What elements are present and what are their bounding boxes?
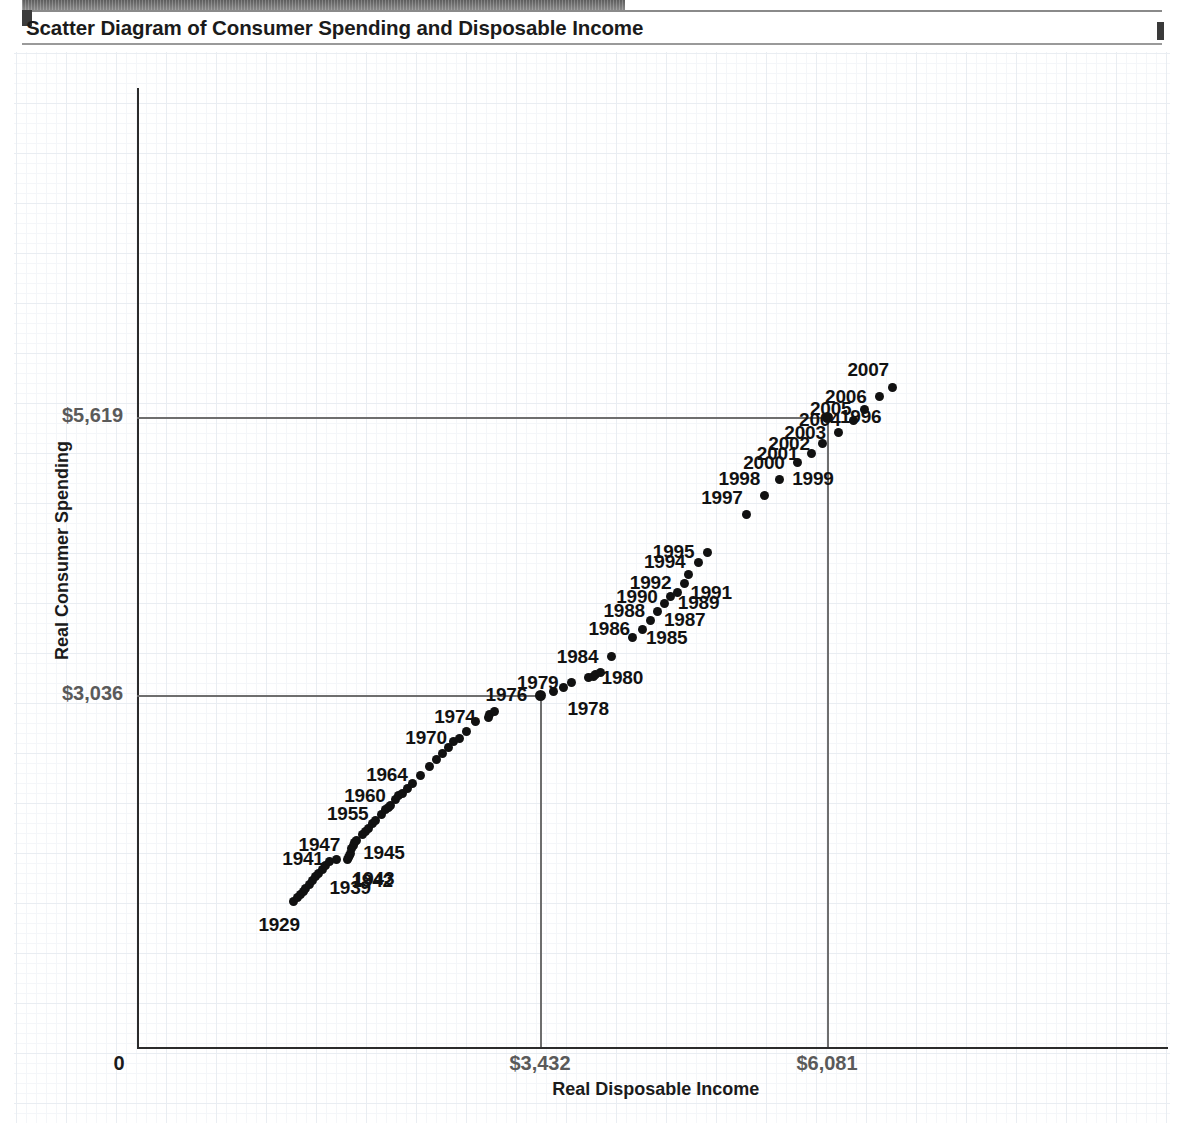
- data-point-label-1999: 1999: [792, 468, 833, 490]
- data-point-1988: [653, 607, 662, 616]
- y-axis-title: Real Consumer Spending: [52, 441, 73, 660]
- data-point-label-2007: 2007: [848, 359, 889, 381]
- data-point-2006: [875, 392, 884, 401]
- data-point-1964: [416, 771, 425, 780]
- data-point-1994: [694, 558, 703, 567]
- data-point-label-1943: 1943: [353, 868, 394, 890]
- data-point-2007: [888, 383, 897, 392]
- screenshot-page: Scatter Diagram of Consumer Spending and…: [0, 0, 1182, 1131]
- x-axis-title: Real Disposable Income: [552, 1079, 759, 1100]
- y-axis-line: [137, 88, 139, 1047]
- data-point-label-1960: 1960: [344, 785, 385, 807]
- data-point-1984: [607, 652, 616, 661]
- data-point-label-2006: 2006: [825, 386, 866, 408]
- reference-line-x-3432: [540, 695, 542, 1047]
- data-point: [425, 762, 434, 771]
- data-point-label-1984: 1984: [557, 646, 598, 668]
- data-point-label-1995: 1995: [653, 541, 694, 563]
- data-point-label-1978: 1978: [567, 698, 608, 720]
- data-point-label-1964: 1964: [366, 764, 407, 786]
- data-point-1987: [646, 616, 655, 625]
- data-point: [596, 668, 605, 677]
- y-tick-label-5619: $5,619: [62, 404, 123, 427]
- data-point: [490, 707, 499, 716]
- data-point-1998: [760, 491, 769, 500]
- data-point-label-1991: 1991: [690, 582, 731, 604]
- data-point-label-1979: 1979: [517, 672, 558, 694]
- data-point-label-1929: 1929: [258, 914, 299, 936]
- data-point-1995: [703, 548, 712, 557]
- y-tick-label-3036: $3,036: [62, 682, 123, 705]
- reference-line-y-3036: [137, 695, 540, 697]
- x-tick-label-6081: $6,081: [796, 1052, 857, 1075]
- data-point-label-1947: 1947: [299, 834, 340, 856]
- data-point-1979: [567, 678, 576, 687]
- data-point-1999: [775, 475, 784, 484]
- scatter-plot: $3,036$5,6190$3,432$6,081Real Disposable…: [0, 0, 1182, 1131]
- data-point: [408, 779, 417, 788]
- data-point-label-1992: 1992: [630, 572, 671, 594]
- data-point-label-1997: 1997: [701, 487, 742, 509]
- data-point-label-1970: 1970: [405, 727, 446, 749]
- data-point-1997: [742, 510, 751, 519]
- x-tick-label-3432: $3,432: [509, 1052, 570, 1075]
- data-point-label-1945: 1945: [363, 842, 404, 864]
- data-point-label-1974: 1974: [434, 706, 475, 728]
- reference-line-y-5619: [137, 417, 827, 419]
- x-axis-line: [137, 1047, 1168, 1049]
- reference-line-x-6081: [827, 417, 829, 1047]
- data-point-1992: [680, 579, 689, 588]
- x-tick-label-0: 0: [113, 1052, 124, 1075]
- data-point-label-1980: 1980: [602, 667, 643, 689]
